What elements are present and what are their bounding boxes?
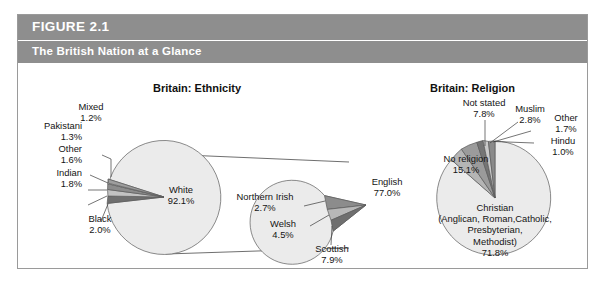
figure-header-bar: FIGURE 2.1 xyxy=(18,15,587,40)
label-northern-irish: Northern Irish 2.7% xyxy=(223,191,307,213)
figure-number-label: FIGURE 2.1 xyxy=(32,19,110,34)
label-english: English 77.0% xyxy=(358,176,416,198)
figure-caption: The British Nation at a Glance xyxy=(32,45,202,57)
label-welsh: Welsh 4.5% xyxy=(256,218,310,240)
label-christian: Christian (Anglican, Roman,Catholic, Pre… xyxy=(405,202,585,258)
label-hindu: Hindu 1.0% xyxy=(542,135,584,157)
figure-frame: FIGURE 2.1 The British Nation at a Glanc… xyxy=(17,14,588,269)
label-indian: Indian 1.8% xyxy=(14,167,82,189)
label-other-ethnicity: Other 1.6% xyxy=(14,143,82,165)
figure-plot-area: Britain: Ethnicity Britain: Religion .sl… xyxy=(18,63,587,268)
label-pakistani: Pakistani 1.3% xyxy=(14,120,82,142)
label-white: White 92.1% xyxy=(152,184,210,206)
figure-caption-bar: The British Nation at a Glance xyxy=(18,40,587,63)
label-no-religion: No religion 15.1% xyxy=(430,153,502,175)
label-black: Black 2.0% xyxy=(72,213,128,235)
label-other-religion: Other 1.7% xyxy=(545,112,587,134)
label-scottish: Scottish 7.9% xyxy=(303,243,361,265)
